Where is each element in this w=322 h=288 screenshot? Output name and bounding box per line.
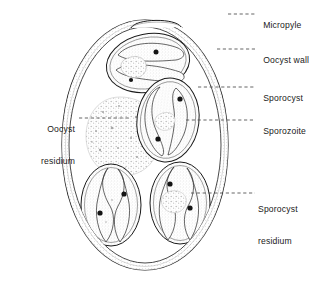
label-oocyst-residium: Oocyst residium <box>10 103 75 177</box>
label-sporocyst: Sporocyst <box>258 82 303 103</box>
label-oocyst-wall-line1: Oocyst <box>263 55 291 65</box>
label-oocyst-wall: Oocyst wall <box>258 44 309 65</box>
label-micropyle-line1: Micropyle <box>263 20 301 30</box>
label-sporocyst-line1: Sporocyst <box>263 93 303 103</box>
label-micropyle: Micropyle <box>258 9 302 30</box>
label-oocyst-wall-line2: wall <box>294 55 310 65</box>
label-sporocyst-residium-line2: residium <box>258 236 298 247</box>
label-sporozoite: Sporozoite <box>258 115 306 136</box>
label-sporozoite-line1: Sporozoite <box>263 126 306 136</box>
label-oocyst-residium-line1: Oocyst <box>10 124 75 135</box>
label-oocyst-residium-line2: residium <box>10 156 75 167</box>
label-sporocyst-residium-line1: Sporocyst <box>258 204 298 215</box>
label-sporocyst-residium: Sporocyst residium <box>258 183 298 257</box>
